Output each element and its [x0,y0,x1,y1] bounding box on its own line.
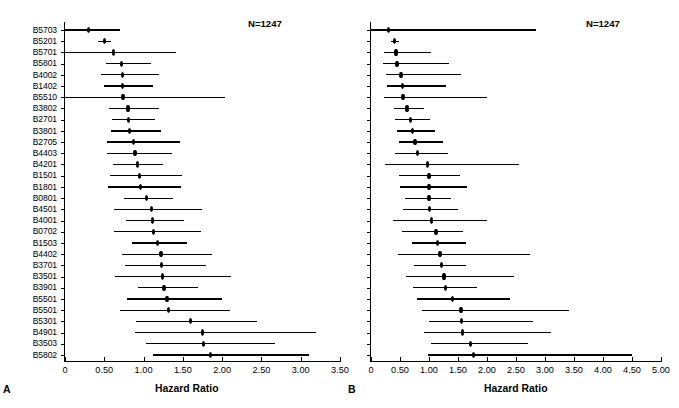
y-axis-tick [367,176,370,177]
confidence-interval-line [399,141,443,142]
y-axis-tick [61,86,64,87]
y-axis-tick [367,232,370,233]
point-estimate-marker [461,329,464,335]
category-label: B4002 [33,71,57,80]
confidence-interval-line [387,85,447,86]
panel-b-n-label: N=1247 [586,18,620,29]
y-axis-tick [61,288,64,289]
point-estimate-marker [189,318,192,324]
point-estimate-marker [401,94,404,100]
confidence-interval-line [371,29,536,30]
point-estimate-marker [120,61,123,67]
y-axis-tick [367,321,370,322]
x-axis-tick [301,357,302,361]
y-axis-tick [367,344,370,345]
y-axis-tick [367,131,370,132]
confidence-interval-line [395,119,429,120]
category-label: B3503 [33,339,57,348]
confidence-interval-line [383,63,450,64]
point-estimate-marker [121,83,124,89]
y-axis-tick [61,265,64,266]
point-estimate-marker [409,117,412,123]
y-axis-tick [61,176,64,177]
confidence-interval-line [424,332,551,333]
category-label: B3901 [33,283,57,292]
x-axis-tick [545,357,546,361]
x-axis-tick [65,357,66,361]
y-axis-tick [61,344,64,345]
y-axis-tick [367,310,370,311]
category-label: B4201 [33,160,57,169]
confidence-interval-line [386,74,461,75]
confidence-interval-line [112,119,155,120]
confidence-interval-line [124,198,174,199]
confidence-interval-line [111,130,161,131]
point-estimate-marker [393,38,396,44]
point-estimate-marker [133,150,136,156]
y-axis-tick [61,299,64,300]
confidence-interval-line [125,265,207,266]
x-axis-tick [458,357,459,361]
forest-plot-figure: N=1247 B5703B5701B5201B5101B1402B4403B42… [0,0,679,408]
point-estimate-marker [127,117,130,123]
category-label: B2705 [33,138,57,147]
point-estimate-marker [426,161,429,167]
point-estimate-marker [413,139,416,145]
y-axis-tick [367,254,370,255]
point-estimate-marker [161,273,164,279]
confidence-interval-line [114,231,201,232]
confidence-interval-line [115,276,231,277]
y-axis-tick [61,164,64,165]
x-axis-tick-label: 2.00 [204,366,240,375]
y-axis-tick [367,52,370,53]
point-estimate-marker [159,251,162,257]
confidence-interval-line [104,85,154,86]
category-label: B4403 [33,149,57,158]
confidence-interval-line [412,242,466,243]
x-axis-tick [371,357,372,361]
confidence-interval-line [122,254,212,255]
confidence-interval-line [126,220,184,221]
point-estimate-marker [167,307,170,313]
point-estimate-marker [136,161,139,167]
point-estimate-marker [209,352,212,358]
category-label: B0801 [33,194,57,203]
point-estimate-marker [121,94,124,100]
confidence-interval-line [135,332,317,333]
confidence-interval-line [402,231,463,232]
y-axis-spine [64,22,65,361]
point-estimate-marker [438,251,441,257]
point-estimate-marker [112,49,115,55]
y-axis-tick [367,299,370,300]
point-estimate-marker [440,262,443,268]
y-axis-tick [61,64,64,65]
point-estimate-marker [126,105,129,111]
category-label: B5501 [33,295,57,304]
confidence-interval-line [65,29,120,30]
y-axis-tick [61,75,64,76]
y-axis-tick [61,187,64,188]
x-axis-tick [400,357,401,361]
confidence-interval-line [153,354,309,355]
confidence-interval-line [406,276,514,277]
point-estimate-marker [442,273,445,279]
point-estimate-marker [434,229,437,235]
point-estimate-marker [469,341,472,347]
y-axis-tick [61,209,64,210]
point-estimate-marker [411,128,414,134]
confidence-interval-line [138,287,198,288]
category-label: B3701 [33,261,57,270]
y-axis-tick [367,86,370,87]
x-axis-tick [183,357,184,361]
panel-a-letter: A [3,383,11,395]
y-axis-tick [61,120,64,121]
category-label: B4901 [33,328,57,337]
confidence-interval-line [384,97,487,98]
category-label: B5501 [33,306,57,315]
x-axis-line [64,361,341,362]
panel-b-letter: B [348,383,356,395]
y-axis-tick [61,333,64,334]
x-axis-tick-label: 0.50 [86,366,122,375]
y-axis-tick [61,108,64,109]
confidence-interval-line [394,108,424,109]
